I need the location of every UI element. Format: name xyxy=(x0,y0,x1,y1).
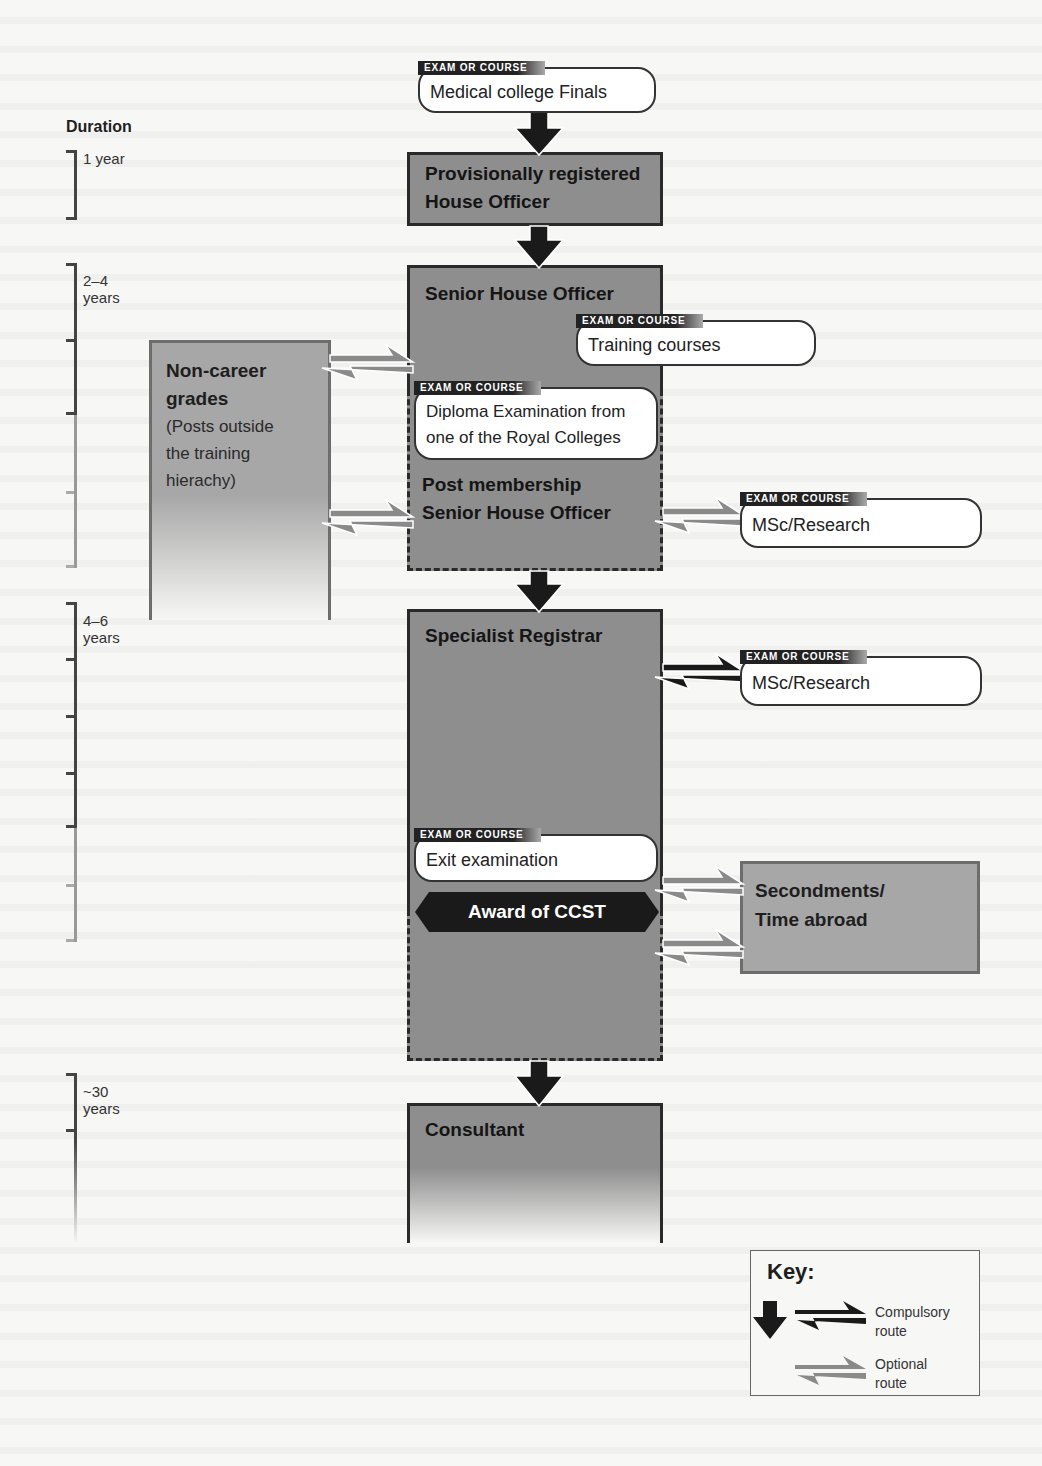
legend-key: Key: Compulsory route Optional route xyxy=(750,1250,980,1396)
key-compulsory-label-1: Compulsory xyxy=(875,1303,950,1322)
exam-exit: EXAM OR COURSE Exit examination xyxy=(414,834,658,882)
exam-exit-text: Exit examination xyxy=(426,847,558,873)
exam-tag: EXAM OR COURSE xyxy=(414,381,541,395)
exam-tag: EXAM OR COURSE xyxy=(418,61,545,75)
optional-arrow-icon xyxy=(795,1356,866,1385)
key-optional-label-2: route xyxy=(875,1374,927,1393)
exam-msc-research-2: EXAM OR COURSE MSc/Research xyxy=(740,656,982,706)
exam-diploma-text-1: Diploma Examination from xyxy=(426,399,625,425)
exam-tag: EXAM OR COURSE xyxy=(576,314,703,328)
milestone-ccst: Award of CCST xyxy=(415,892,659,932)
exam-finals-text: Medical college Finals xyxy=(430,79,607,105)
exam-msc-1-text: MSc/Research xyxy=(752,512,870,538)
compulsory-route-arrows xyxy=(655,653,743,689)
exam-training-courses: EXAM OR COURSE Training courses xyxy=(576,320,816,366)
exam-msc-2-text: MSc/Research xyxy=(752,670,870,696)
compulsory-arrow-icon xyxy=(753,1301,866,1339)
exam-msc-research-1: EXAM OR COURSE MSc/Research xyxy=(740,498,982,548)
exam-tag: EXAM OR COURSE xyxy=(740,650,867,664)
exam-diploma: EXAM OR COURSE Diploma Examination from … xyxy=(414,387,658,460)
exam-tag: EXAM OR COURSE xyxy=(740,492,867,506)
key-optional-label-1: Optional xyxy=(875,1355,927,1374)
route-arrows xyxy=(0,0,1042,1466)
exam-tag: EXAM OR COURSE xyxy=(414,828,541,842)
compulsory-down-arrows xyxy=(515,112,563,1106)
exam-diploma-text-2: one of the Royal Colleges xyxy=(426,425,625,451)
exam-finals: EXAM OR COURSE Medical college Finals xyxy=(418,67,656,113)
key-compulsory-label-2: route xyxy=(875,1322,950,1341)
exam-training-courses-text: Training courses xyxy=(588,332,720,358)
